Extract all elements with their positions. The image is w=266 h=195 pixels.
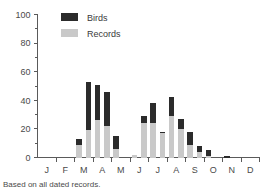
bar-segment-birds — [76, 139, 82, 145]
bar-group — [169, 97, 175, 157]
x-axis-month-label: A — [173, 165, 179, 175]
bar-segment-records — [178, 129, 184, 158]
bar-segment-birds — [169, 97, 175, 116]
bar-segment-birds — [95, 85, 101, 121]
bar-segment-birds — [104, 92, 110, 126]
legend-item: Birds — [61, 13, 108, 23]
bar-group — [113, 136, 119, 157]
bar-segment-records — [150, 123, 156, 157]
bar-group — [197, 146, 203, 157]
y-axis-tick-label: 40 — [20, 96, 30, 106]
bar-group — [141, 116, 147, 157]
bar-segment-records — [104, 126, 110, 157]
bar-segment-birds — [113, 136, 119, 149]
bar-segment-records — [113, 149, 119, 158]
bar-segment-birds — [187, 132, 193, 145]
bar-segment-records — [141, 123, 147, 157]
bar-group — [95, 85, 101, 158]
chart-footnote: Based on all dated records. — [3, 180, 100, 189]
bar-segment-birds — [197, 146, 203, 152]
bar-segment-birds — [150, 103, 156, 123]
bar-segment-records — [95, 120, 101, 157]
bar-group — [76, 139, 82, 158]
chart-legend: BirdsRecords — [61, 13, 121, 39]
legend-label: Birds — [87, 13, 108, 23]
x-axis-month-label: J — [45, 165, 50, 175]
x-axis-month-label: J — [156, 165, 161, 175]
bar-segment-records — [197, 152, 203, 158]
x-axis-month-label: M — [80, 165, 88, 175]
bar-segment-records — [86, 130, 92, 157]
bar-group — [86, 82, 92, 158]
chart-container: 020406080100 JFMAMJJASOND BirdsRecords B… — [0, 0, 266, 195]
bar-group — [224, 156, 230, 157]
bar-segment-records — [132, 155, 138, 158]
legend-item: Records — [61, 29, 121, 39]
bar-segment-birds — [224, 156, 230, 157]
x-axis-month-label: F — [63, 165, 69, 175]
x-axis-month-label: N — [229, 165, 236, 175]
x-axis-month-label: J — [137, 165, 142, 175]
legend-swatch — [61, 13, 78, 21]
x-axis: JFMAMJJASOND — [38, 158, 260, 175]
bars-layer — [76, 82, 230, 158]
bar-group — [178, 119, 184, 158]
bar-group — [150, 103, 156, 157]
bar-segment-records — [169, 116, 175, 157]
x-axis-month-label: S — [192, 165, 198, 175]
bar-segment-records — [160, 133, 166, 157]
bar-segment-birds — [141, 116, 147, 123]
x-axis-month-label: O — [210, 165, 217, 175]
bar-group — [160, 132, 166, 158]
y-axis-tick-label: 0 — [25, 153, 30, 163]
y-axis-tick-label: 100 — [15, 10, 30, 20]
footnote-label: Based on all dated records. — [3, 180, 100, 189]
bar-segment-birds — [86, 82, 92, 131]
bar-group — [132, 155, 138, 158]
x-axis-month-label: A — [99, 165, 105, 175]
x-axis-month-label: D — [247, 165, 254, 175]
bar-group — [187, 132, 193, 158]
bar-segment-records — [206, 156, 212, 157]
y-axis-tick-label: 60 — [20, 67, 30, 77]
bar-segment-records — [187, 145, 193, 158]
y-axis: 020406080100 — [15, 10, 37, 163]
bar-group — [104, 92, 110, 158]
bar-segment-birds — [206, 150, 212, 156]
x-axis-month-label: M — [117, 165, 125, 175]
legend-swatch — [61, 29, 78, 37]
y-axis-tick-label: 80 — [20, 38, 30, 48]
legend-label: Records — [87, 29, 121, 39]
bar-segment-birds — [178, 119, 184, 129]
bar-chart: 020406080100 JFMAMJJASOND BirdsRecords B… — [0, 0, 266, 195]
bar-group — [206, 150, 212, 157]
y-axis-tick-label: 20 — [20, 124, 30, 134]
bar-segment-records — [76, 145, 82, 158]
bar-segment-birds — [160, 132, 166, 133]
